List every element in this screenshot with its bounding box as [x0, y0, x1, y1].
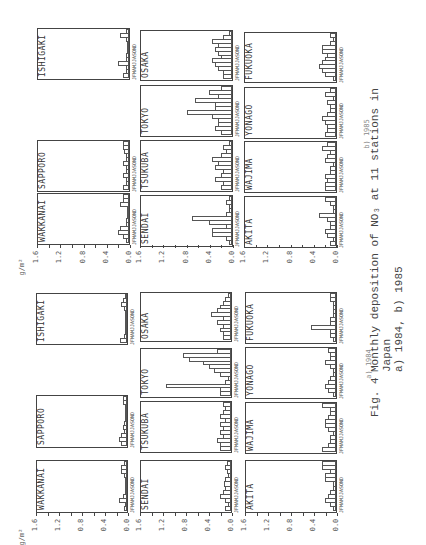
caption-fig-number: Fig. 4 — [369, 377, 381, 417]
station-name: SAPPORO — [38, 152, 47, 189]
y-tick-mark — [326, 513, 327, 516]
station-frame-yonago: YONAGO — [244, 87, 337, 139]
y-tick-mark — [279, 245, 280, 248]
station-frame-yonago: YONAGO — [245, 347, 337, 399]
bar-d-11 — [322, 461, 336, 466]
y-tick-mark — [152, 245, 153, 248]
y-tick-mark — [314, 245, 315, 248]
month-axis-labels: JFMAMJJASOND — [233, 362, 239, 398]
y-tick-label: 0.4 — [205, 251, 213, 264]
y-tick-mark — [244, 245, 245, 248]
caption-line-2: Japan — [381, 339, 393, 372]
bar-d-11 — [227, 461, 232, 466]
month-axis-labels: JFMAMJJASOND — [234, 101, 240, 137]
station-name: SENDAI — [141, 478, 150, 510]
y-tick-mark — [84, 245, 85, 248]
y-tick-label: 0.4 — [204, 519, 212, 532]
y-tick-mark — [257, 513, 258, 516]
y-tick-mark — [105, 513, 106, 516]
y-tick-label: 1.2 — [159, 251, 167, 264]
month-axis-labels: JFMAMJJASOND — [338, 308, 344, 344]
y-tick-mark — [302, 245, 303, 248]
station-name: SENDAI — [141, 212, 150, 244]
y-tick-mark — [130, 245, 131, 248]
y-tick-mark — [107, 245, 108, 248]
month-axis-labels: JFMAMJJASOND — [233, 417, 239, 453]
y-tick-mark — [82, 513, 83, 516]
y-tick-label: 1.6 — [135, 251, 143, 264]
station-frame-tokyo: TOKYO — [140, 348, 232, 398]
bar-d-11 — [123, 194, 129, 199]
y-tick-mark — [71, 513, 72, 516]
y-tick-mark — [337, 245, 338, 248]
station-name: YONAGO — [245, 104, 254, 136]
station-frame-sendai: SENDAI — [140, 460, 232, 513]
bar-d-11 — [228, 293, 231, 298]
station-frame-osaka: OSAKA — [140, 30, 233, 81]
bar-d-11 — [229, 31, 232, 36]
station-name: WAKKANAI — [38, 199, 47, 242]
station-name: TSUKUBA — [141, 413, 150, 450]
y-tick-mark — [152, 513, 153, 516]
month-axis-labels: JFMAMJJASOND — [338, 212, 344, 248]
station-name: TOKYO — [141, 368, 150, 395]
y-tick-label: 1.2 — [263, 519, 271, 532]
station-frame-tsukuba: TSUKUBA — [140, 140, 233, 192]
station-frame-akita: AKITA — [244, 196, 337, 248]
station-frame-tokyo: TOKYO — [140, 85, 233, 137]
y-tick-label: 1.6 — [240, 519, 248, 532]
caption-line-3: a) 1984, b) 1985 — [393, 266, 405, 372]
bar-d-11 — [328, 348, 336, 353]
y-tick-mark — [256, 245, 257, 248]
y-tick-mark — [95, 245, 96, 248]
station-frame-sendai: SENDAI — [140, 195, 233, 247]
y-tick-mark — [267, 245, 268, 248]
month-axis-labels: JFMAMJJASOND — [234, 211, 240, 247]
y-tick-label: 1.6 — [32, 251, 40, 264]
bar-d-11 — [223, 402, 231, 407]
y-tick-mark — [245, 513, 246, 516]
y-tick-mark — [186, 513, 187, 516]
y-tick-mark — [337, 513, 338, 516]
bar-d-11 — [330, 293, 336, 298]
y-tick-mark — [221, 513, 222, 516]
month-axis-labels: JFMAMJJASOND — [129, 477, 135, 513]
y-tick-label: 0.4 — [309, 519, 317, 532]
station-name: TOKYO — [141, 107, 150, 134]
month-axis-labels: JFMAMJJASOND — [338, 363, 344, 399]
bar-d-11 — [126, 29, 129, 34]
y-tick-mark — [325, 245, 326, 248]
y-tick-mark — [59, 513, 60, 516]
y-tick-mark — [175, 245, 176, 248]
y-tick-label: 0.8 — [77, 519, 85, 532]
y-tick-mark — [209, 513, 210, 516]
y-tick-mark — [48, 513, 49, 516]
station-name: ISHIGAKI — [37, 299, 46, 342]
station-frame-akita: AKITA — [245, 460, 337, 513]
station-frame-sapporo: SAPPORO — [37, 140, 130, 192]
station-name: WAJIMA — [245, 158, 254, 190]
y-axis-unit-label: g/m² — [18, 259, 26, 276]
station-frame-ishigaki: ISHIGAKI — [36, 293, 128, 345]
bar-d-11 — [322, 403, 336, 408]
y-tick-label: 0.8 — [181, 519, 189, 532]
bar-d-11 — [124, 461, 127, 466]
station-name: WAJIMA — [246, 419, 255, 451]
y-tick-mark — [175, 513, 176, 516]
bar-d-11 — [125, 294, 127, 299]
y-tick-label: 1.2 — [56, 251, 64, 264]
bar-d-11 — [327, 142, 336, 147]
y-tick-mark — [291, 245, 292, 248]
bar-d-11 — [229, 196, 232, 201]
y-tick-mark — [128, 513, 129, 516]
station-frame-wajima: WAJIMA — [245, 402, 337, 454]
y-axis-unit-label: g/m² — [18, 529, 26, 545]
y-tick-mark — [280, 513, 281, 516]
month-axis-labels: JFMAMJJASOND — [338, 418, 344, 454]
station-frame-wakkanai: WAKKANAI — [36, 460, 128, 513]
bar-m-2 — [166, 384, 231, 389]
month-axis-labels: JFMAMJJASOND — [234, 45, 240, 81]
bar-d-11 — [330, 88, 336, 93]
station-name: AKITA — [246, 483, 255, 510]
y-tick-mark — [163, 513, 164, 516]
